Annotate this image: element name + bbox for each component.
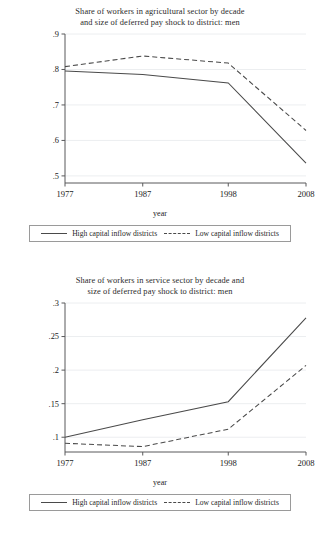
- x-tick-label: 2008: [297, 189, 314, 199]
- legend-service: High capital inflow districts Low capita…: [29, 494, 291, 511]
- line-chart-agriculture: .5.6.7.8.91977198719982008: [0, 28, 320, 208]
- panel-title-line2: and size of deferred pay shock to distri…: [18, 18, 302, 29]
- legend-label-high: High capital inflow districts: [72, 498, 157, 507]
- panel-title-line1: Share of workers in service sector by de…: [18, 276, 302, 287]
- y-tick-label: .9: [53, 30, 59, 39]
- x-tick-label: 2008: [297, 458, 314, 468]
- y-tick-label: .6: [53, 136, 59, 145]
- y-tick-label: .5: [53, 172, 59, 181]
- chart-panel-service: Share of workers in service sector by de…: [0, 268, 320, 537]
- x-tick-label: 1998: [220, 189, 237, 199]
- y-tick-label: .2: [53, 366, 59, 375]
- line-chart-service: .1.15.2.25.31977198719982008: [0, 297, 320, 477]
- y-tick-label: .8: [53, 65, 59, 74]
- legend-item-high-service: High capital inflow districts: [41, 498, 157, 507]
- legend-agriculture: High capital inflow districts Low capita…: [29, 225, 291, 242]
- x-axis-label-service: year: [0, 478, 320, 487]
- legend-dashed-line-icon: [164, 502, 190, 504]
- figure-container: Share of workers in agricultural sector …: [0, 0, 320, 537]
- series-line-low: [65, 56, 306, 131]
- legend-label-low: Low capital inflow districts: [195, 229, 279, 238]
- legend-dashed-line-icon: [164, 233, 190, 235]
- x-tick-label: 1977: [56, 189, 74, 199]
- y-tick-label: .3: [53, 299, 59, 308]
- x-tick-label: 1987: [134, 458, 152, 468]
- panel-title-agriculture: Share of workers in agricultural sector …: [0, 0, 320, 28]
- series-line-high: [65, 318, 306, 437]
- legend-label-low: Low capital inflow districts: [195, 498, 279, 507]
- x-axis-label-agriculture: year: [0, 209, 320, 218]
- legend-solid-line-icon: [41, 233, 67, 235]
- chart-panel-agriculture: Share of workers in agricultural sector …: [0, 0, 320, 268]
- legend-label-high: High capital inflow districts: [72, 229, 157, 238]
- legend-item-low-service: Low capital inflow districts: [164, 498, 279, 507]
- y-tick-label: .15: [49, 400, 59, 409]
- x-tick-label: 1977: [56, 458, 74, 468]
- legend-item-high-agriculture: High capital inflow districts: [41, 229, 157, 238]
- legend-solid-line-icon: [41, 502, 67, 504]
- plot-area-service: .1.15.2.25.31977198719982008: [0, 297, 320, 477]
- x-tick-label: 1998: [220, 458, 237, 468]
- series-line-high: [65, 71, 306, 163]
- panel-title-service: Share of workers in service sector by de…: [0, 268, 320, 297]
- series-line-low: [65, 365, 306, 446]
- legend-item-low-agriculture: Low capital inflow districts: [164, 229, 279, 238]
- y-tick-label: .1: [53, 433, 59, 442]
- y-tick-label: .7: [53, 101, 59, 110]
- y-tick-label: .25: [49, 332, 59, 341]
- panel-title-line1: Share of workers in agricultural sector …: [18, 7, 302, 18]
- panel-title-line2: size of deferred pay shock to district: …: [18, 287, 302, 298]
- plot-area-agriculture: .5.6.7.8.91977198719982008: [0, 28, 320, 208]
- x-tick-label: 1987: [134, 189, 152, 199]
